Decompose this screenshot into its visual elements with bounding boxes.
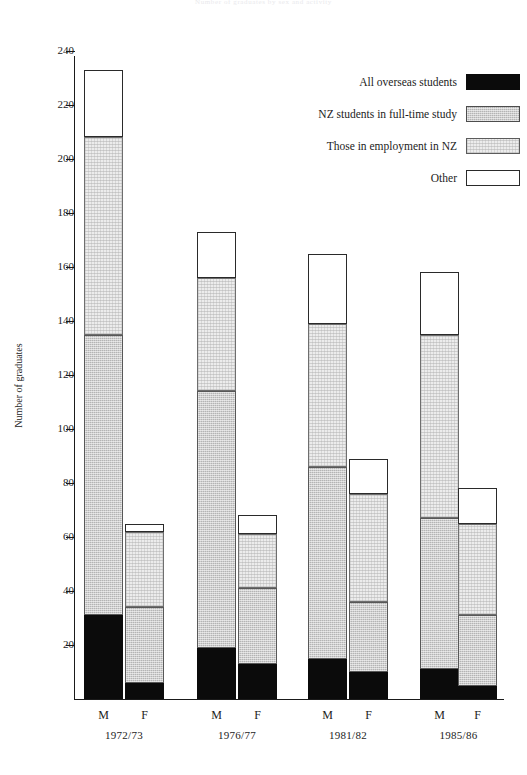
bar-1985-86-F[interactable]: [458, 488, 497, 699]
legend-swatch-overseas-icon: [466, 74, 520, 90]
bar-segment-employ[interactable]: [197, 278, 236, 391]
x-label-sex-1981-82-F: F: [349, 708, 389, 723]
bar-segment-overseas[interactable]: [458, 686, 497, 700]
legend-label-employ: Those in employment in NZ: [327, 140, 466, 152]
bar-segment-other[interactable]: [238, 515, 277, 534]
bar-1981-82-F[interactable]: [349, 459, 388, 699]
bar-segment-employ[interactable]: [125, 532, 164, 608]
legend-swatch-study-icon: [466, 106, 520, 122]
y-tick-label-220: 220: [18, 99, 74, 110]
bar-segment-other[interactable]: [458, 488, 497, 523]
bar-1985-86-M[interactable]: [420, 272, 459, 699]
bar-segment-overseas[interactable]: [84, 615, 123, 699]
chart-root: Number of graduates by sex and activity …: [0, 0, 527, 775]
x-group-label-1985-86: 1985/86: [399, 729, 519, 741]
legend: All overseas students NZ students in ful…: [290, 72, 520, 200]
legend-item-study: NZ students in full-time study: [290, 104, 520, 124]
bar-segment-other[interactable]: [349, 459, 388, 494]
legend-label-overseas: All overseas students: [359, 76, 466, 88]
x-label-sex-1985-86-M: M: [420, 708, 460, 723]
bar-segment-overseas[interactable]: [349, 672, 388, 699]
x-group-label-1972-73: 1972/73: [64, 729, 184, 741]
y-tick-label-240: 240: [18, 45, 74, 56]
x-label-sex-1981-82-M: M: [308, 708, 348, 723]
bar-segment-other[interactable]: [308, 254, 347, 324]
bar-segment-overseas[interactable]: [125, 683, 164, 699]
bar-segment-overseas[interactable]: [197, 648, 236, 699]
y-tick-label-160: 160: [18, 261, 74, 272]
bar-segment-other[interactable]: [420, 272, 459, 334]
y-tick-label-140: 140: [18, 315, 74, 326]
y-tick-label-180: 180: [18, 207, 74, 218]
x-label-sex-1972-73-M: M: [84, 708, 124, 723]
bar-segment-study[interactable]: [84, 335, 123, 616]
legend-swatch-other-icon: [466, 170, 520, 186]
x-group-label-1981-82: 1981/82: [288, 729, 408, 741]
bar-segment-other[interactable]: [197, 232, 236, 278]
bar-segment-study[interactable]: [458, 615, 497, 685]
x-label-sex-1976-77-M: M: [197, 708, 237, 723]
legend-item-employ: Those in employment in NZ: [290, 136, 520, 156]
y-axis-title: Number of graduates: [13, 306, 24, 466]
bar-segment-employ[interactable]: [238, 534, 277, 588]
bar-1976-77-F[interactable]: [238, 515, 277, 699]
bar-segment-employ[interactable]: [458, 524, 497, 616]
bar-segment-study[interactable]: [238, 588, 277, 664]
legend-item-other: Other: [290, 168, 520, 188]
y-tick-label-120: 120: [18, 369, 74, 380]
x-axis-line: [74, 699, 504, 700]
bar-segment-overseas[interactable]: [308, 659, 347, 700]
x-label-sex-1976-77-F: F: [238, 708, 278, 723]
x-label-sex-1985-86-F: F: [458, 708, 498, 723]
y-tick-label-80: 80: [18, 477, 74, 488]
y-tick-label-200: 200: [18, 153, 74, 164]
legend-label-other: Other: [431, 172, 466, 184]
bar-segment-employ[interactable]: [84, 137, 123, 334]
bar-segment-study[interactable]: [125, 607, 164, 683]
bar-segment-study[interactable]: [420, 518, 459, 669]
bar-segment-overseas[interactable]: [420, 669, 459, 699]
bar-1972-73-F[interactable]: [125, 524, 164, 700]
legend-item-overseas: All overseas students: [290, 72, 520, 92]
bar-segment-employ[interactable]: [308, 324, 347, 467]
bar-segment-other[interactable]: [84, 70, 123, 138]
y-axis-line: [74, 56, 75, 700]
bar-segment-employ[interactable]: [420, 335, 459, 519]
bar-segment-overseas[interactable]: [238, 664, 277, 699]
bar-1972-73-M[interactable]: [84, 70, 123, 699]
bar-segment-study[interactable]: [308, 467, 347, 659]
y-tick-label-40: 40: [18, 585, 74, 596]
y-tick-label-100: 100: [18, 423, 74, 434]
bar-segment-study[interactable]: [349, 602, 388, 672]
bar-segment-other[interactable]: [125, 524, 164, 532]
x-group-label-1976-77: 1976/77: [177, 729, 297, 741]
y-tick-label-20: 20: [18, 639, 74, 650]
legend-label-study: NZ students in full-time study: [318, 108, 466, 120]
bar-segment-study[interactable]: [197, 391, 236, 648]
bar-1976-77-M[interactable]: [197, 232, 236, 699]
legend-swatch-employ-icon: [466, 138, 520, 154]
bar-segment-employ[interactable]: [349, 494, 388, 602]
y-tick-label-60: 60: [18, 531, 74, 542]
bar-1981-82-M[interactable]: [308, 254, 347, 700]
x-label-sex-1972-73-F: F: [125, 708, 165, 723]
